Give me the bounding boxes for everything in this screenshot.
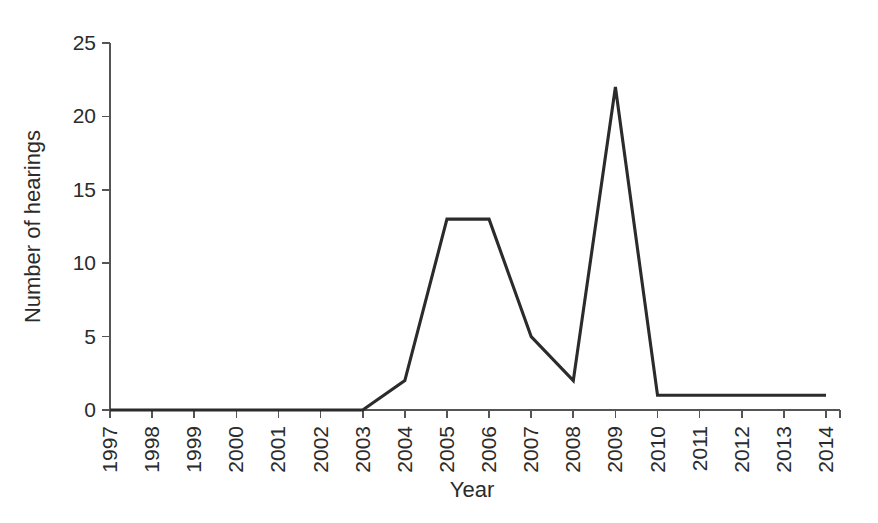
x-tick-label: 1998 <box>140 426 163 473</box>
x-tick-label: 2001 <box>266 426 289 473</box>
x-tick-label: 2009 <box>603 426 626 473</box>
chart-canvas: 0510152025 19971998199920002001200220032… <box>0 0 878 523</box>
x-tick-label: 2005 <box>435 426 458 473</box>
y-tick-label: 0 <box>84 398 96 421</box>
x-tick-label: 2008 <box>561 426 584 473</box>
y-tick-label: 15 <box>73 178 96 201</box>
y-tick-label: 5 <box>84 325 96 348</box>
x-tick-label: 1997 <box>98 426 121 473</box>
x-tick-label: 2002 <box>309 426 332 473</box>
x-tick-label: 2006 <box>477 426 500 473</box>
x-tick-label: 2000 <box>224 426 247 473</box>
y-tick-label: 25 <box>73 31 96 54</box>
y-tick-label: 20 <box>73 104 96 127</box>
x-tick-label: 2014 <box>814 426 837 473</box>
y-tick-label: 10 <box>73 251 96 274</box>
x-tick-label: 2004 <box>393 426 416 473</box>
line-chart-figure: 0510152025 19971998199920002001200220032… <box>0 0 878 523</box>
x-tick-label: 2012 <box>730 426 753 473</box>
x-tick-label: 2003 <box>351 426 374 473</box>
x-tick-label: 2007 <box>519 426 542 473</box>
y-axis-title: Number of hearings <box>20 130 45 323</box>
x-axis-title: Year <box>450 477 494 502</box>
x-tick-label: 2013 <box>772 426 795 473</box>
x-tick-label: 2010 <box>646 426 669 473</box>
x-tick-label: 2011 <box>688 426 711 471</box>
x-tick-label: 1999 <box>182 426 205 473</box>
